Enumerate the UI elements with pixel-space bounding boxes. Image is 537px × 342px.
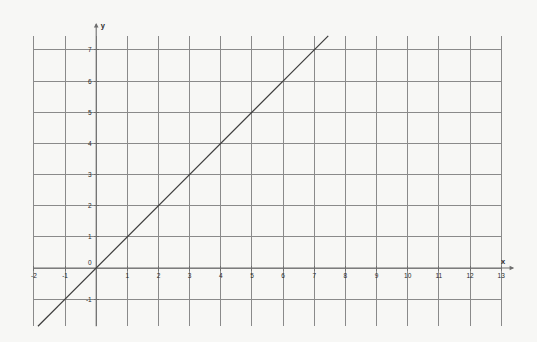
x-tick-label: -2 — [31, 272, 37, 279]
x-tick-label: -1 — [62, 272, 68, 279]
y-tick-label: -1 — [86, 296, 92, 303]
y-tick-label: 4 — [88, 140, 92, 147]
x-tick-label: 5 — [250, 272, 254, 279]
x-tick-label: 13 — [498, 272, 506, 279]
x-tick-label: 4 — [219, 272, 223, 279]
x-tick-label: 8 — [344, 272, 348, 279]
y-tick-label: 6 — [88, 78, 92, 85]
x-tick-label: 11 — [435, 272, 442, 279]
y-tick-label: 5 — [88, 109, 92, 116]
y-tick-label: 1 — [88, 233, 92, 240]
graph-canvas: -2-112345678910111213 -101234567 x y — [0, 0, 537, 342]
x-tick-label: 9 — [375, 272, 379, 279]
x-tick-label: 3 — [188, 272, 192, 279]
y-tick-label: 7 — [88, 46, 92, 53]
x-tick-label: 12 — [466, 272, 474, 279]
y-tick-label: 2 — [88, 202, 92, 209]
x-tick-label: 10 — [404, 272, 412, 279]
x-tick-label: 6 — [281, 272, 285, 279]
x-tick-label: 1 — [126, 272, 130, 279]
y-tick-label: 3 — [88, 171, 92, 178]
graph-background — [0, 0, 537, 342]
y-tick-label-zero: 0 — [88, 259, 92, 266]
coordinate-graph: -2-112345678910111213 -101234567 x y — [0, 0, 537, 342]
x-tick-label: 2 — [157, 272, 161, 279]
x-tick-label: 7 — [312, 272, 316, 279]
